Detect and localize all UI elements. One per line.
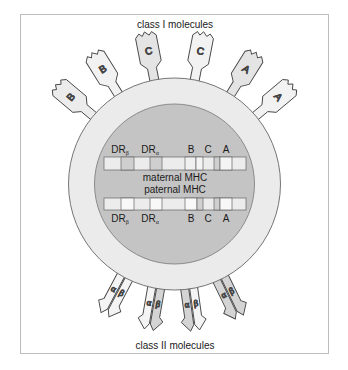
locus-label: C: [204, 213, 211, 224]
class-i-title: class I molecules: [137, 19, 213, 30]
class-i-molecule-c1: C: [135, 30, 165, 84]
maternal-mhc-label: maternal MHC: [143, 172, 207, 183]
paternal-chromosome: [104, 198, 246, 210]
locus-label: A: [223, 144, 230, 155]
paternal-mhc-label: paternal MHC: [144, 184, 206, 195]
locus-label: DR: [111, 213, 125, 224]
class-ii-molecule-3: α β: [176, 283, 207, 332]
locus-label: A: [223, 213, 230, 224]
locus-label: B: [188, 144, 195, 155]
class-i-molecule-c2: C: [184, 30, 214, 84]
maternal-chromosome: [104, 157, 246, 170]
locus-subscript: β: [126, 150, 129, 156]
class-ii-title: class II molecules: [136, 340, 215, 351]
locus-label: C: [204, 144, 211, 155]
locus-label: DR: [141, 213, 155, 224]
mhc-diagram: B B C C A A α β: [0, 0, 348, 370]
locus-subscript: β: [126, 219, 129, 225]
locus-label: DR: [111, 144, 125, 155]
locus-label: B: [188, 213, 195, 224]
locus-label: DR: [141, 144, 155, 155]
